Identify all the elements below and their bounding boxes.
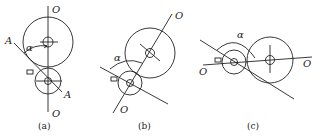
label-o-right-c: O bbox=[303, 58, 311, 69]
figure-b bbox=[100, 14, 175, 113]
label-alpha-b: α bbox=[114, 52, 121, 63]
label-o-left-c: O bbox=[199, 66, 207, 77]
caption-a: (a) bbox=[38, 121, 50, 131]
label-a-start: A bbox=[4, 35, 12, 46]
label-alpha-a: α bbox=[26, 42, 33, 53]
drive-arrow-b bbox=[111, 77, 117, 81]
line-a-a bbox=[14, 43, 62, 92]
label-o-bottom-b: O bbox=[120, 104, 128, 115]
caption-c: (c) bbox=[247, 121, 259, 131]
gear-mesh-diagram: O O A A α (a) O O α (b) O O α (c) bbox=[0, 0, 319, 139]
caption-b: (b) bbox=[138, 121, 151, 131]
drive-arrow-c bbox=[215, 58, 221, 62]
label-alpha-c: α bbox=[237, 29, 244, 40]
label-o-bottom-a: O bbox=[52, 108, 60, 119]
label-a-end: A bbox=[63, 89, 71, 100]
figure-c bbox=[200, 37, 312, 99]
drive-arrow-a bbox=[27, 70, 33, 74]
label-o-top-b: O bbox=[175, 10, 183, 21]
label-o-top-a: O bbox=[52, 4, 60, 15]
